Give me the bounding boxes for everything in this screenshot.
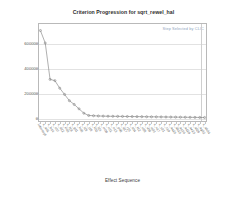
x-axis-tick-mark [79,122,80,124]
x-axis-tick-mark [176,122,177,124]
series-line [40,31,204,118]
x-axis-tick-mark [45,122,46,124]
x-axis-tick-mark [156,122,157,124]
x-axis-tick-mark [132,122,133,124]
x-axis-tick-mark [127,122,128,124]
x-axis-tick-mark [180,122,181,124]
x-axis-tick-mark [190,122,191,124]
x-axis-tick-mark [65,122,66,124]
x-axis-tick-mark [108,122,109,124]
x-axis-tick-mark [40,122,41,124]
x-axis-tick-mark [69,122,70,124]
y-axis-tick-mark [36,118,38,119]
x-axis-tick-mark [98,122,99,124]
x-axis-tick-mark [55,122,56,124]
x-axis-label: Effect Sequence [38,178,207,183]
x-axis-tick-mark [185,122,186,124]
x-axis-tick-mark [171,122,172,124]
x-axis-tick-mark [74,122,75,124]
x-axis-tick-mark [123,122,124,124]
y-axis-tick-mark [36,43,38,44]
x-axis-tick-mark [151,122,152,124]
chart-title: Criterion Progression for sqrt_rewel_hal [0,9,247,15]
criterion-series [38,23,207,122]
x-axis-tick-mark [142,122,143,124]
x-axis-tick-mark [118,122,119,124]
x-axis-tick-mark [60,122,61,124]
chart-figure: Criterion Progression for sqrt_rewel_hal… [0,0,247,197]
x-axis-tick-mark [113,122,114,124]
x-axis-tick-mark [195,122,196,124]
x-axis-tick-mark [161,122,162,124]
x-axis-tick-mark [84,122,85,124]
x-axis-tick-mark [89,122,90,124]
x-axis-tick-mark [166,122,167,124]
x-axis-tick-mark [103,122,104,124]
x-axis-tick-mark [200,122,201,124]
x-axis-tick-mark [137,122,138,124]
y-axis-tick-mark [36,93,38,94]
x-axis-tick-mark [147,122,148,124]
x-axis-tick-mark [94,122,95,124]
x-axis-tick-mark [205,122,206,124]
x-axis-tick-mark [50,122,51,124]
x-axis-ticks: Interceptx_a01x_b14x_c07x_d22x_e03x_f18x… [38,123,207,175]
y-axis-tick-mark [36,68,38,69]
